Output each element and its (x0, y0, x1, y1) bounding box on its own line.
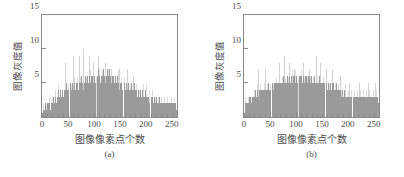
plot-area-b (244, 15, 379, 117)
y-tick-mark (244, 82, 248, 83)
x-tick-mark-minor (275, 114, 276, 117)
x-tick-mark (42, 113, 43, 117)
x-tick-mark-minor (156, 114, 157, 117)
x-tick-mark-minor (363, 114, 364, 117)
x-tick-mark-minor (332, 114, 333, 117)
x-tick-mark-minor (358, 114, 359, 117)
x-tick-mark-minor (286, 114, 287, 117)
x-tick-mark-minor (306, 114, 307, 117)
panel-caption-a: (a) (41, 149, 178, 159)
x-tick-mark-minor (312, 114, 313, 117)
x-tick-mark-minor (141, 114, 142, 117)
x-tick-mark-minor (353, 114, 354, 117)
y-tick-mark (42, 14, 46, 15)
x-tick-label: 150 (113, 120, 127, 129)
x-tick-mark (296, 113, 297, 117)
x-tick-mark (348, 113, 349, 117)
x-axis-title-a: 图像像素点个数 (41, 131, 178, 146)
x-tick-mark-minor (110, 114, 111, 117)
x-tick-mark-minor (151, 114, 152, 117)
x-tick-mark (322, 113, 323, 117)
x-tick-label: 150 (315, 120, 329, 129)
y-axis-title-a: 图像灰度值 (10, 14, 24, 118)
x-tick-mark-minor (301, 114, 302, 117)
panel-caption-b: (b) (243, 149, 380, 159)
x-tick-mark-minor (73, 114, 74, 117)
x-tick-mark-minor (58, 114, 59, 117)
x-tick-mark-minor (177, 114, 178, 117)
y-tick-label: 10 (30, 36, 39, 45)
x-tick-mark-minor (249, 114, 250, 117)
x-tick-mark (68, 113, 69, 117)
x-tick-mark-minor (99, 114, 100, 117)
plot-axes-b: 51015 050100150200250 (243, 14, 380, 118)
x-axis-title-b: 图像像素点个数 (243, 131, 380, 146)
x-tick-mark-minor (379, 114, 380, 117)
x-tick-mark (120, 113, 121, 117)
x-tick-mark (146, 113, 147, 117)
x-tick-label: 100 (289, 120, 303, 129)
x-tick-mark-minor (280, 114, 281, 117)
chart-panel-a: 51015 050100150200250 图像灰度值 图像像素点个数 (a) (0, 0, 202, 177)
x-tick-mark-minor (78, 114, 79, 117)
x-tick-label: 250 (367, 120, 381, 129)
x-tick-mark-minor (317, 114, 318, 117)
x-tick-mark-minor (125, 114, 126, 117)
x-tick-mark-minor (369, 114, 370, 117)
x-tick-label: 250 (165, 120, 179, 129)
x-tick-mark-minor (254, 114, 255, 117)
y-tick-mark (42, 82, 46, 83)
x-tick-mark (270, 113, 271, 117)
y-tick-label: 5 (237, 70, 242, 79)
plot-axes-a: 51015 050100150200250 (41, 14, 178, 118)
x-tick-label: 50 (63, 120, 72, 129)
x-tick-mark (374, 113, 375, 117)
x-tick-mark-minor (167, 114, 168, 117)
x-tick-mark-minor (104, 114, 105, 117)
x-tick-mark-minor (89, 114, 90, 117)
histogram-bars-b (244, 15, 379, 117)
chart-panel-b: 51015 050100150200250 图像灰度值 图像像素点个数 (b) (202, 0, 404, 177)
x-tick-mark-minor (47, 114, 48, 117)
x-tick-mark-minor (327, 114, 328, 117)
x-tick-mark-minor (265, 114, 266, 117)
x-tick-mark-minor (52, 114, 53, 117)
x-tick-mark-minor (337, 114, 338, 117)
histogram-figure: 51015 050100150200250 图像灰度值 图像像素点个数 (a) … (0, 0, 404, 177)
x-tick-mark-minor (135, 114, 136, 117)
y-tick-label: 10 (232, 36, 241, 45)
x-tick-label: 100 (87, 120, 101, 129)
x-tick-mark-minor (84, 114, 85, 117)
histogram-bars-a (42, 15, 177, 117)
x-tick-mark (94, 113, 95, 117)
x-tick-mark-minor (161, 114, 162, 117)
x-tick-label: 0 (40, 120, 45, 129)
y-tick-mark (244, 48, 248, 49)
x-tick-mark (244, 113, 245, 117)
y-tick-label: 5 (35, 70, 40, 79)
x-tick-mark-minor (63, 114, 64, 117)
x-tick-label: 200 (341, 120, 355, 129)
y-tick-mark (42, 48, 46, 49)
x-tick-mark-minor (343, 114, 344, 117)
y-tick-mark (244, 14, 248, 15)
x-tick-label: 50 (265, 120, 274, 129)
y-axis-title-b: 图像灰度值 (212, 14, 226, 118)
x-tick-mark-minor (291, 114, 292, 117)
x-tick-mark-minor (115, 114, 116, 117)
x-tick-mark-minor (260, 114, 261, 117)
y-tick-label: 15 (30, 2, 39, 11)
plot-area-a (42, 15, 177, 117)
x-tick-label: 0 (242, 120, 247, 129)
x-tick-mark (172, 113, 173, 117)
y-tick-label: 15 (232, 2, 241, 11)
x-tick-label: 200 (139, 120, 153, 129)
x-tick-mark-minor (130, 114, 131, 117)
